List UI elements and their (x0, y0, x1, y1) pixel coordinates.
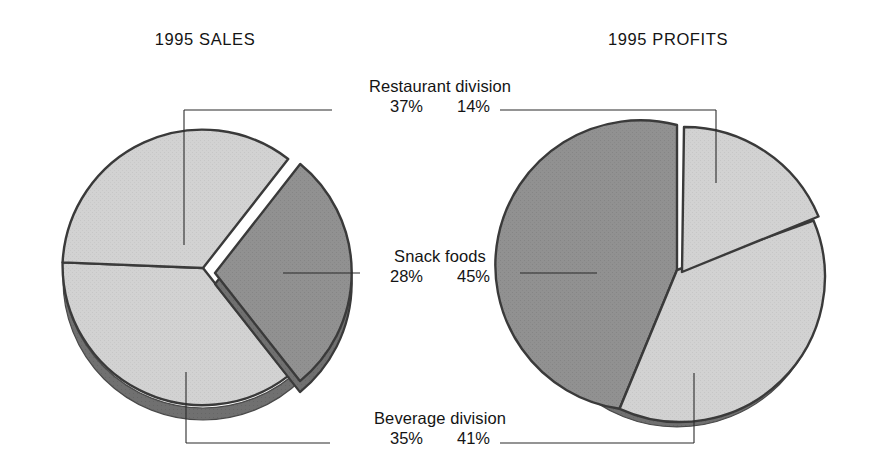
callout-beverage-division: Beverage division 35% 41% (340, 408, 540, 448)
callout-beverage-profits-value: 41% (457, 428, 490, 448)
callout-restaurant-profits-value: 14% (457, 96, 490, 116)
callout-restaurant-values: 37% 14% (340, 96, 540, 116)
callout-snack-foods: Snack foods 28% 45% (340, 246, 540, 286)
callout-beverage-category: Beverage division (340, 408, 540, 428)
callout-restaurant-division: Restaurant division 37% 14% (340, 76, 540, 116)
callout-snack-values: 28% 45% (340, 266, 540, 286)
callout-snack-category: Snack foods (340, 246, 540, 266)
pie-chart-figure (0, 0, 869, 474)
callout-snack-sales-value: 28% (390, 266, 423, 286)
callout-beverage-sales-value: 35% (390, 428, 423, 448)
callout-snack-profits-value: 45% (457, 266, 490, 286)
chart-title-profits: 1995 PROFITS (553, 30, 783, 49)
callout-restaurant-sales-value: 37% (390, 96, 423, 116)
chart-title-sales: 1995 SALES (90, 30, 320, 49)
callout-restaurant-category: Restaurant division (340, 76, 540, 96)
callout-beverage-values: 35% 41% (340, 428, 540, 448)
